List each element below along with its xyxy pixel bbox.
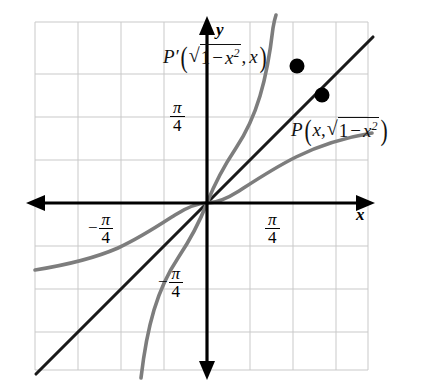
point-label-p-prime: P′ ( √ 1−x2 , x ) [163,44,268,69]
y-tick-negative-numerator: π [170,265,183,282]
sqrt-icon: √ [327,118,338,143]
y-axis-up-arrow-icon [199,16,215,35]
open-paren-p-prime: ( [180,45,187,68]
x-tick-label-negative: − π 4 [88,211,113,247]
x-tick-negative-denominator: 4 [99,228,114,246]
radicand-minus-p-prime: − [210,47,225,68]
graph-figure: y x π 4 − π 4 π 4 − π 4 [0,0,444,383]
x-tick-negative-sign: − [88,219,98,236]
point-label-p-first-coord: x [313,119,321,141]
radicand-minus-p: − [348,120,363,141]
y-tick-label-negative: − π 4 [158,265,183,301]
y-axis-label: y [216,20,224,40]
point-label-p: P ( x , √ 1−x2 ) [291,117,389,142]
y-tick-positive-numerator: π [171,99,184,116]
close-paren-p: ) [381,118,388,141]
y-tick-negative-sign: − [158,273,168,290]
grid-lines [35,22,368,370]
sqrt-group-p: √ 1−x2 [327,117,380,142]
y-tick-negative-denominator: 4 [169,282,184,300]
radicand-lead-p: 1 [339,120,349,141]
open-paren-p: ( [304,118,311,141]
y-tick-label-positive: π 4 [170,99,185,135]
axis-lines [33,24,368,372]
point-label-p-name: P [291,119,303,141]
point-label-p-prime-second-coord: x [249,46,257,68]
x-tick-positive-denominator: 4 [265,228,280,246]
point-label-p-prime-name: P′ [163,46,179,68]
comma-p-prime: , [241,46,249,68]
point-marker-p-prime [290,59,305,74]
radicand-exp-p: 2 [371,119,377,133]
x-tick-positive-numerator: π [266,211,279,228]
point-marker-p [315,88,330,103]
x-axis-label: x [356,205,365,225]
x-tick-label-positive: π 4 [265,211,280,247]
x-tick-negative-numerator: π [100,211,113,228]
y-tick-positive-denominator: 4 [170,116,185,134]
radicand-exp-p-prime: 2 [233,46,239,60]
sqrt-group-p-prime: √ 1−x2 [189,44,242,69]
close-paren-p-prime: ) [259,45,266,68]
radicand-lead-p-prime: 1 [201,47,211,68]
sqrt-icon: √ [189,45,200,70]
